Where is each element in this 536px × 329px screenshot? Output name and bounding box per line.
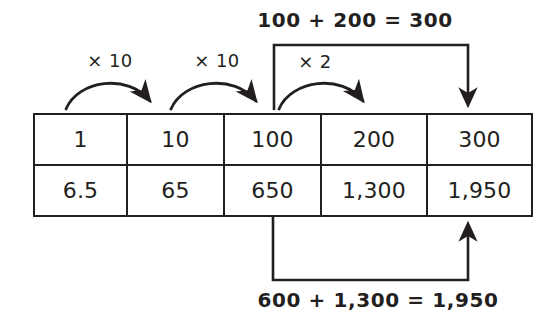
table-row: 1 10 100 200 300 (34, 114, 532, 165)
table-cell: 1 (34, 114, 127, 165)
table-cell: 300 (427, 114, 532, 165)
table-cell: 6.5 (34, 165, 127, 216)
value-table: 1 10 100 200 300 6.5 65 650 1,300 1,950 (33, 113, 533, 217)
table-body: 1 10 100 200 300 6.5 65 650 1,300 1,950 (34, 114, 532, 216)
arc-arrow-times-ten-2 (171, 83, 256, 109)
table-row: 6.5 65 650 1,300 1,950 (34, 165, 532, 216)
value-table-wrapper: 1 10 100 200 300 6.5 65 650 1,300 1,950 (33, 113, 521, 211)
table-cell: 650 (224, 165, 321, 216)
bottom-sum-label: 600 + 1,300 = 1,950 (257, 288, 498, 312)
table-cell: 100 (224, 114, 321, 165)
arc-arrow-times-ten-1 (66, 83, 150, 109)
top-sum-label: 100 + 200 = 300 (257, 8, 453, 32)
table-cell: 1,950 (427, 165, 532, 216)
table-cell: 10 (127, 114, 224, 165)
multiplier-label-3: × 2 (298, 51, 331, 72)
table-cell: 200 (321, 114, 427, 165)
table-cell: 65 (127, 165, 224, 216)
multiplier-label-1: × 10 (87, 50, 132, 71)
table-cell: 1,300 (321, 165, 427, 216)
arc-arrow-times-two (279, 83, 363, 109)
diagram-canvas: 100 + 200 = 300 × 10 × 10 × 2 600 + 1,30… (0, 0, 536, 329)
multiplier-label-2: × 10 (194, 50, 239, 71)
bracket-bottom-sum (273, 216, 468, 280)
